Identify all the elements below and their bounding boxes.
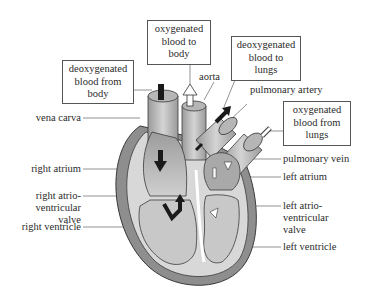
arrow-deoxy-from-body xyxy=(158,84,164,100)
box-deoxygenated-blood-to-lungs: deoxygenated blood to lungs xyxy=(231,36,301,81)
label-left-ventricle: left ventricle xyxy=(283,241,336,253)
box-oxygenated-blood-from-lungs: oxygenated blood from lungs xyxy=(283,101,351,146)
heart-diagram: deoxygenated blood from body oxygenated … xyxy=(0,0,376,303)
label-vena-cava: vena carva xyxy=(36,112,81,124)
left-atrium xyxy=(204,153,240,190)
label-left-atrium: left atrium xyxy=(283,171,327,183)
label-right-ventricle: right ventricle xyxy=(22,221,81,233)
label-pulmonary-vein: pulmonary vein xyxy=(283,153,349,165)
box-oxygenated-blood-to-body: oxygenated blood to body xyxy=(147,20,211,65)
box-deoxygenated-blood-from-body: deoxygenated blood from body xyxy=(62,60,134,104)
arrow-oxy-from-lungs xyxy=(262,128,270,136)
label-aorta: aorta xyxy=(199,71,220,83)
label-right-atrium: right atrium xyxy=(31,163,81,175)
label-pulmonary-artery: pulmonary artery xyxy=(250,84,323,96)
label-left-av-valve: left atrio- ventricular valve xyxy=(283,200,328,236)
